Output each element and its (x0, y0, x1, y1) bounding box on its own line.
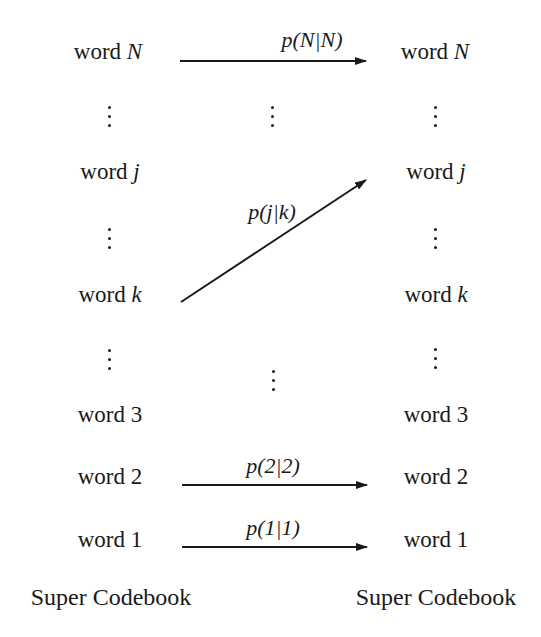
right-word-j: word j (406, 159, 465, 185)
right-word-1: word 1 (404, 527, 469, 553)
label-p-1-1: p(1|1) (246, 515, 300, 541)
label-p-2-2: p(2|2) (246, 453, 300, 479)
label-p-n-n: p(N|N) (281, 27, 342, 53)
right-word-k: word k (404, 282, 467, 308)
left-codebook-title: Super Codebook (31, 584, 192, 611)
left-ellipsis-3 (108, 349, 112, 376)
left-word-2: word 2 (78, 464, 143, 490)
right-word-2: word 2 (404, 464, 469, 490)
middle-ellipsis-top (271, 106, 275, 133)
label-p-j-k: p(j|k) (248, 199, 296, 225)
right-ellipsis-3 (434, 348, 438, 375)
right-codebook-title: Super Codebook (356, 584, 517, 611)
right-word-3: word 3 (404, 402, 469, 428)
left-word-k: word k (78, 282, 141, 308)
right-word-n: word N (401, 39, 469, 65)
right-ellipsis-2 (434, 228, 438, 255)
left-ellipsis-2 (108, 228, 112, 255)
left-word-1: word 1 (78, 527, 143, 553)
right-ellipsis-1 (434, 106, 438, 133)
left-ellipsis-1 (108, 106, 112, 133)
left-word-n: word N (74, 39, 142, 65)
middle-ellipsis-bottom (272, 370, 276, 397)
left-word-j: word j (80, 159, 139, 185)
left-word-3: word 3 (78, 402, 143, 428)
